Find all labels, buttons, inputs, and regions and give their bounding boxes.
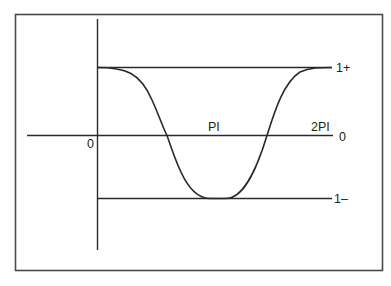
label-lower-level: 1– — [334, 192, 348, 206]
label-two-pi: 2PI — [311, 120, 330, 134]
waveform-diagram: 1+ 2PI 0 PI 0 1– — [0, 0, 391, 286]
label-pi: PI — [208, 120, 220, 134]
label-zero-level: 0 — [339, 130, 346, 144]
diagram-frame — [16, 15, 383, 271]
label-upper-level: 1+ — [336, 61, 350, 75]
label-origin: 0 — [87, 137, 94, 151]
